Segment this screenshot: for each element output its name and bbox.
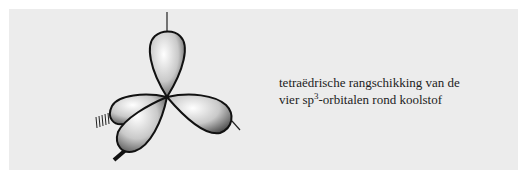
caption: tetraëdrische rangschikking van de vier … (279, 74, 519, 108)
hashed-bond-icon (96, 113, 109, 128)
orbital-lobe-top (150, 32, 185, 98)
right-axis-line (232, 121, 240, 130)
orbital-lobe-right (167, 95, 232, 134)
caption-line-1: tetraëdrische rangschikking van de (279, 74, 519, 91)
caption-line-2: vier sp3-orbitalen rond koolstof (279, 91, 519, 108)
sp3-orbital-diagram (60, 0, 260, 180)
